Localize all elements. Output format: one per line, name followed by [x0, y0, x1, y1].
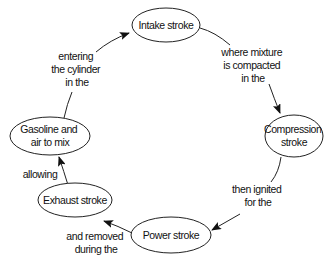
node-compression-stroke: Compression stroke [264, 115, 324, 157]
node-label: Exhaust stroke [43, 194, 107, 206]
connector-arrow [269, 84, 280, 113]
edge-power-to-exhaust: and removed during the [66, 221, 132, 255]
connector-line [271, 157, 281, 182]
edge-exhaust-to-gasoline: allowing [23, 157, 68, 185]
node-power-stroke: Power stroke [131, 217, 211, 253]
edge-compression-to-power: then ignited for the [212, 157, 284, 230]
connector-arrow [59, 157, 68, 185]
node-gasoline-and-air: Gasoline and air to mix [10, 117, 90, 155]
connector-line [64, 92, 72, 118]
edge-gasoline-to-intake: entering the cylinder in the [51, 33, 129, 118]
edge-label: entering the cylinder in the [51, 50, 102, 88]
four-stroke-cycle-diagram: entering the cylinder in the where mixtu… [0, 0, 332, 268]
edge-label: where mixture is compacted in the [220, 46, 284, 84]
edge-label: allowing [23, 168, 58, 180]
edge-intake-to-compression: where mixture is compacted in the [200, 28, 285, 113]
connector-arrow [96, 33, 129, 52]
edge-label: and removed during the [66, 230, 125, 255]
node-label: Intake stroke [139, 19, 194, 31]
connector-line [200, 28, 230, 45]
edge-label: then ignited for the [232, 183, 284, 208]
connector-arrow [212, 214, 240, 230]
node-intake-stroke: Intake stroke [132, 8, 200, 42]
node-exhaust-stroke: Exhaust stroke [38, 183, 112, 217]
node-label: Power stroke [143, 229, 200, 241]
